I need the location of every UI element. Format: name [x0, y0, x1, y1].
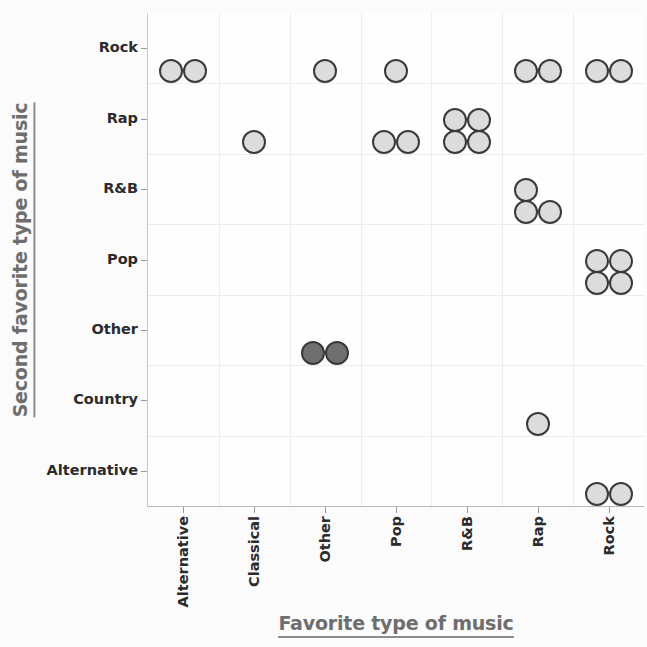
- x-tick-label-text: Rap: [530, 516, 546, 547]
- x-tick-mark: [396, 507, 397, 513]
- data-point: [585, 59, 609, 83]
- data-point: [313, 59, 337, 83]
- x-tick-label-text: Classical: [246, 516, 262, 587]
- y-tick-label-rap: Rap: [32, 110, 138, 128]
- data-point: [183, 59, 207, 83]
- y-tick-label-other: Other: [32, 321, 138, 339]
- data-point: [396, 130, 420, 154]
- x-tick-label-text: Pop: [388, 516, 404, 547]
- data-point: [443, 108, 467, 132]
- data-point: [467, 130, 491, 154]
- y-tick-label-text: Alternative: [38, 462, 138, 478]
- y-tick-label-text: Country: [38, 391, 138, 407]
- gridline-horizontal: [148, 154, 644, 155]
- plot-area: [148, 13, 644, 506]
- x-tick-mark: [467, 507, 468, 513]
- y-tick-mark: [141, 330, 147, 331]
- x-tick-label-alternative: Alternative: [173, 516, 193, 606]
- data-point: [609, 59, 633, 83]
- y-tick-mark: [141, 48, 147, 49]
- data-point: [467, 108, 491, 132]
- x-tick-mark: [254, 507, 255, 513]
- y-tick-mark: [141, 119, 147, 120]
- x-tick-label-pop: Pop: [386, 516, 406, 606]
- x-tick-mark: [325, 507, 326, 513]
- x-tick-mark: [609, 507, 610, 513]
- x-tick-label-text: Other: [317, 516, 333, 563]
- gridline-vertical: [219, 13, 220, 506]
- data-point: [585, 482, 609, 506]
- gridline-vertical: [573, 13, 574, 506]
- y-tick-mark: [141, 189, 147, 190]
- x-tick-mark: [538, 507, 539, 513]
- data-point: [242, 130, 266, 154]
- x-tick-label-classical: Classical: [244, 516, 264, 606]
- y-tick-label-rock: Rock: [32, 39, 138, 57]
- data-point: [325, 341, 349, 365]
- gridline-horizontal: [148, 83, 644, 84]
- x-tick-label-text: Alternative: [175, 516, 191, 607]
- x-axis-title: Favorite type of music: [145, 612, 647, 638]
- data-point: [538, 59, 562, 83]
- gridline-vertical: [290, 13, 291, 506]
- data-point: [609, 271, 633, 295]
- x-tick-label-text: Rock: [601, 516, 617, 555]
- data-point: [443, 130, 467, 154]
- y-tick-label-text: Other: [38, 321, 138, 337]
- x-tick-label-r-b: R&B: [457, 516, 477, 606]
- data-point: [585, 249, 609, 273]
- data-point: [609, 249, 633, 273]
- y-tick-mark: [141, 471, 147, 472]
- gridline-horizontal: [148, 295, 644, 296]
- data-point: [526, 412, 550, 436]
- gridline-vertical: [361, 13, 362, 506]
- gridline-horizontal: [148, 365, 644, 366]
- y-tick-label-text: R&B: [38, 180, 138, 196]
- x-tick-label-rock: Rock: [599, 516, 619, 606]
- data-point: [514, 200, 538, 224]
- y-tick-label-country: Country: [32, 391, 138, 409]
- y-tick-label-pop: Pop: [32, 251, 138, 269]
- y-tick-label-text: Pop: [38, 251, 138, 267]
- y-tick-label-text: Rap: [38, 110, 138, 126]
- data-point: [384, 59, 408, 83]
- data-point: [609, 482, 633, 506]
- data-point: [585, 271, 609, 295]
- gridline-vertical: [431, 13, 432, 506]
- data-point: [514, 178, 538, 202]
- dot-plot-chart: Second favorite type of music RockRapR&B…: [0, 0, 647, 647]
- y-tick-label-alternative: Alternative: [32, 462, 138, 480]
- data-point: [538, 200, 562, 224]
- y-axis-line: [147, 13, 148, 506]
- y-tick-mark: [141, 400, 147, 401]
- x-tick-label-other: Other: [315, 516, 335, 606]
- x-tick-mark: [183, 507, 184, 513]
- x-axis-title-text: Favorite type of music: [278, 612, 513, 638]
- data-point: [372, 130, 396, 154]
- y-tick-mark: [141, 260, 147, 261]
- x-tick-label-text: R&B: [459, 516, 475, 551]
- y-tick-label-r-b: R&B: [32, 180, 138, 198]
- data-point: [159, 59, 183, 83]
- gridline-horizontal: [148, 224, 644, 225]
- x-tick-label-rap: Rap: [528, 516, 548, 606]
- data-point: [514, 59, 538, 83]
- gridline-horizontal: [148, 436, 644, 437]
- data-point: [301, 341, 325, 365]
- y-tick-label-text: Rock: [38, 39, 138, 55]
- gridline-vertical: [502, 13, 503, 506]
